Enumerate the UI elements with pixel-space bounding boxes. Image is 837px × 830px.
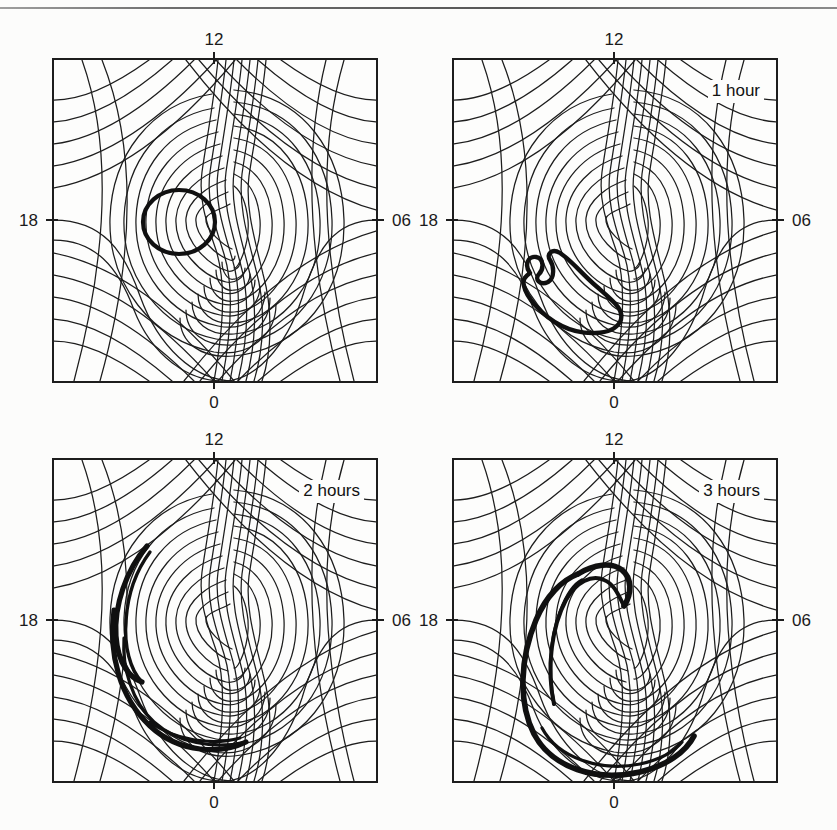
tick-left (46, 619, 58, 621)
tick-bottom (613, 777, 615, 789)
figure-root: 12 0 18 06 (0, 0, 837, 830)
axis-label-right: 06 (792, 612, 811, 629)
panel-time-label: 2 hours (299, 480, 364, 503)
axis-label-right: 06 (792, 212, 811, 229)
scan-artifact-line (0, 7, 837, 9)
tick-right (772, 219, 784, 221)
tick-left (446, 219, 458, 221)
axis-label-left: 18 (8, 612, 38, 629)
tick-bottom (213, 777, 215, 789)
tracer-contour (54, 460, 376, 781)
axis-label-bottom: 0 (609, 794, 618, 811)
panel-1-hour: 1 hour 12 0 18 06 (452, 58, 778, 383)
tick-right (372, 619, 384, 621)
tick-top (613, 452, 615, 464)
panel-frame (52, 458, 378, 783)
panel-3-hours: 3 hours 12 0 18 06 (452, 458, 778, 783)
panel-frame (452, 58, 778, 383)
tick-top (213, 52, 215, 64)
axis-label-left: 18 (408, 612, 438, 629)
tick-right (372, 219, 384, 221)
axis-label-top: 12 (605, 31, 624, 48)
panel-time-label: 1 hour (708, 80, 764, 103)
axis-label-bottom: 0 (209, 794, 218, 811)
tick-top (613, 52, 615, 64)
panel-2-hours: 2 hours 12 0 18 06 (52, 458, 378, 783)
axis-label-top: 12 (205, 431, 224, 448)
axis-label-bottom: 0 (609, 394, 618, 411)
tracer-contour (54, 60, 376, 381)
tick-left (46, 219, 58, 221)
tracer-contour (454, 60, 776, 381)
tick-right (772, 619, 784, 621)
panel-0-hours: 12 0 18 06 (52, 58, 378, 383)
tick-left (446, 619, 458, 621)
tick-bottom (213, 377, 215, 389)
panel-frame (452, 458, 778, 783)
tick-top (213, 452, 215, 464)
tick-bottom (613, 377, 615, 389)
axis-label-left: 18 (408, 212, 438, 229)
axis-label-bottom: 0 (209, 394, 218, 411)
axis-label-top: 12 (205, 31, 224, 48)
panel-time-label: 3 hours (699, 480, 764, 503)
tracer-contour (454, 460, 776, 781)
axis-label-left: 18 (8, 212, 38, 229)
page-bleedthrough-text (790, 250, 795, 272)
panel-frame (52, 58, 378, 383)
page-bleedthrough-text (6, 150, 11, 172)
axis-label-top: 12 (605, 431, 624, 448)
